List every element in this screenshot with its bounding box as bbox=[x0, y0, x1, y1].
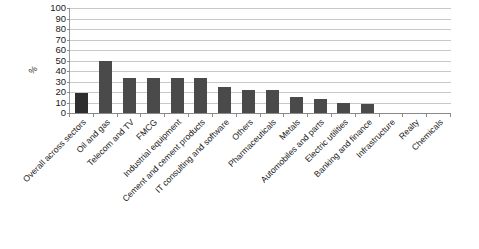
bar-slot bbox=[118, 8, 142, 113]
bar-slot bbox=[284, 8, 308, 113]
bar-slot bbox=[356, 8, 380, 113]
y-axis-tick-label: 90 bbox=[55, 14, 66, 24]
bar-slot bbox=[213, 8, 237, 113]
bar-slot bbox=[261, 8, 285, 113]
bar-slot bbox=[308, 8, 332, 113]
bar bbox=[194, 78, 207, 113]
bar-slot bbox=[141, 8, 165, 113]
bar-series bbox=[70, 8, 451, 113]
bar bbox=[75, 93, 88, 113]
y-axis-tick-label: 50 bbox=[55, 56, 66, 66]
bar bbox=[147, 78, 160, 113]
bar-slot bbox=[189, 8, 213, 113]
x-axis-category-label: Cement and cement products bbox=[0, 117, 207, 249]
bar bbox=[337, 103, 350, 114]
bar bbox=[99, 61, 112, 114]
y-axis-tick-label: 100 bbox=[50, 3, 66, 13]
bar-slot bbox=[403, 8, 427, 113]
y-axis-tick-labels: 1009080706050403020100 bbox=[40, 8, 66, 113]
bar-slot bbox=[380, 8, 404, 113]
x-axis-category-labels: Overall across sectorsOil and gasTelecom… bbox=[0, 117, 479, 249]
bar-slot bbox=[165, 8, 189, 113]
bar-slot bbox=[427, 8, 451, 113]
bar bbox=[290, 97, 303, 113]
y-axis-tick-label: 30 bbox=[55, 77, 66, 87]
bar bbox=[314, 99, 327, 113]
y-axis-tick-label: 70 bbox=[55, 35, 66, 45]
bar-slot bbox=[70, 8, 94, 113]
plot-area bbox=[69, 8, 451, 114]
bar bbox=[361, 104, 374, 113]
bar bbox=[218, 87, 231, 113]
bar-slot bbox=[332, 8, 356, 113]
y-axis-tick-label: 60 bbox=[55, 45, 66, 55]
y-axis-tick-label: 20 bbox=[55, 87, 66, 97]
bar bbox=[123, 78, 136, 113]
y-axis-tick-label: 10 bbox=[55, 98, 66, 108]
bar-chart: % 1009080706050403020100 Overall across … bbox=[0, 0, 479, 249]
y-axis-tick-label: 40 bbox=[55, 66, 66, 76]
bar-slot bbox=[94, 8, 118, 113]
y-axis-tick-label: 80 bbox=[55, 24, 66, 34]
bar bbox=[171, 78, 184, 113]
bar bbox=[242, 90, 255, 113]
bar-slot bbox=[237, 8, 261, 113]
bar bbox=[266, 90, 279, 113]
